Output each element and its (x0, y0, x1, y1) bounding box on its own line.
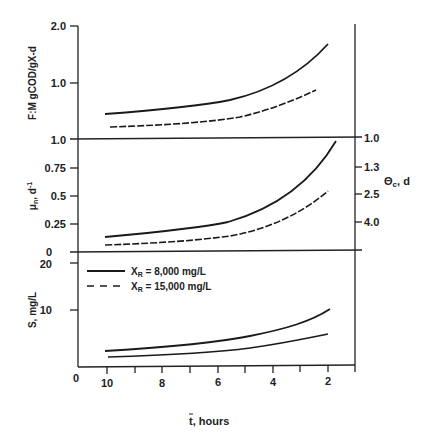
s-solid-curve (105, 309, 330, 351)
legend-solid-label: XR = 8,000 mg/L (131, 266, 206, 278)
panel-divider-top (70, 137, 362, 139)
svg-text:8: 8 (159, 377, 165, 389)
svg-text:2: 2 (325, 375, 331, 387)
legend-dashed-label: XR = 15,000 mg/L (131, 281, 211, 293)
svg-text:4.0: 4.0 (364, 216, 379, 228)
svg-text:6: 6 (215, 376, 221, 388)
svg-text:0.5: 0.5 (51, 190, 66, 202)
svg-text:1.0: 1.0 (51, 134, 66, 146)
svg-text:1.0: 1.0 (51, 77, 66, 89)
theta-axis-title: Θc, d (384, 175, 410, 189)
svg-text:0: 0 (46, 246, 52, 258)
panel-divider-bottom (70, 250, 362, 252)
svg-text:20: 20 (40, 258, 52, 270)
svg-text:0.75: 0.75 (45, 162, 66, 174)
mu-solid-curve (105, 141, 336, 237)
curves (105, 44, 336, 357)
fm-dashed-curve (110, 90, 316, 127)
legend: XR = 8,000 mg/L XR = 15,000 mg/L (87, 266, 211, 293)
chart: XR = 8,000 mg/L XR = 15,000 mg/L 2.0 1.0… (0, 0, 426, 438)
svg-text:10: 10 (101, 377, 113, 389)
svg-text:0.25: 0.25 (45, 218, 66, 230)
s-axis-title: S, mg/L (27, 292, 38, 328)
svg-text:10: 10 (40, 304, 52, 316)
svg-text:t, hours: t, hours (189, 415, 229, 427)
fm-axis-title: F:M gCOD/gX-d (27, 46, 38, 120)
svg-text:1.0: 1.0 (364, 132, 379, 144)
svg-text:0: 0 (73, 372, 79, 384)
left-tick-labels: 2.0 1.0 1.0 0.75 0.5 0.25 0 20 10 (40, 20, 66, 316)
svg-text:2.0: 2.0 (51, 20, 66, 32)
svg-text:2.5: 2.5 (364, 188, 379, 200)
svg-text:1.3: 1.3 (364, 161, 379, 173)
x-tick-labels: 0 10 8 6 4 2 (73, 372, 331, 389)
x-axis (78, 365, 355, 367)
svg-text:4: 4 (270, 376, 277, 388)
fm-solid-curve (105, 44, 328, 114)
right-tick-labels: 1.0 1.3 2.5 4.0 (364, 132, 379, 228)
mu-axis-title: μn, d-1 (26, 182, 39, 210)
s-dashed-curve (108, 334, 328, 357)
mu-dashed-curve (105, 191, 328, 245)
x-axis-title: t, hours (189, 414, 229, 427)
